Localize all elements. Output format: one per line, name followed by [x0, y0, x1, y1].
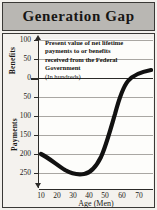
x-axis-spine: [39, 189, 153, 190]
page-title: Generation Gap: [22, 8, 134, 25]
y-tick-label: 150: [7, 131, 31, 139]
y-tick-label: 100: [7, 112, 31, 120]
y-tick-label: 250: [7, 169, 31, 177]
x-axis-title: Age (Men): [39, 199, 153, 208]
y-tick-mark-zero: [31, 78, 39, 80]
y-tick-label: 200: [7, 150, 31, 158]
chart-figure: Generation Gap Benefits Payments 100 50 …: [0, 0, 157, 210]
chart-plot-frame: Benefits Payments 100 50 0 50 100 150 20…: [2, 33, 155, 208]
y-tick-label: 100: [7, 36, 31, 44]
data-curve: [39, 39, 153, 189]
y-tick-label: 50: [7, 93, 31, 101]
chart-title-banner: Generation Gap: [2, 2, 155, 31]
y-tick-label: 50: [7, 55, 31, 63]
y-tick-label: 0: [7, 74, 31, 82]
